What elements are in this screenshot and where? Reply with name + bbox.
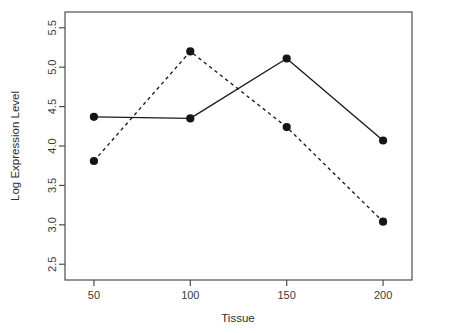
- y-tick-label: 3.5: [46, 178, 58, 193]
- y-tick-label: 5.5: [46, 20, 58, 35]
- data-point-marker: [283, 123, 291, 131]
- x-tick-label: 50: [88, 289, 100, 301]
- y-tick-label: 4.5: [46, 99, 58, 114]
- data-point-marker: [379, 218, 387, 226]
- chart-background: [0, 0, 460, 333]
- y-tick-label: 2.5: [46, 257, 58, 272]
- data-point-marker: [186, 47, 194, 55]
- y-tick-label: 3.0: [46, 217, 58, 232]
- x-axis-title: Tissue: [221, 312, 254, 324]
- chart-canvas: 2.53.03.54.04.55.05.5 50100150200 Tissue…: [0, 0, 460, 333]
- y-tick-label: 5.0: [46, 60, 58, 75]
- data-point-marker: [90, 157, 98, 165]
- data-point-marker: [283, 54, 291, 62]
- data-point-marker: [186, 114, 194, 122]
- x-tick-label: 150: [278, 289, 296, 301]
- data-point-marker: [90, 113, 98, 121]
- y-tick-label: 4.0: [46, 138, 58, 153]
- x-tick-label: 200: [374, 289, 392, 301]
- data-point-marker: [379, 136, 387, 144]
- line-chart: 2.53.03.54.04.55.05.5 50100150200 Tissue…: [0, 0, 460, 333]
- y-axis-title: Log Expression Level: [9, 91, 21, 201]
- x-tick-label: 100: [181, 289, 199, 301]
